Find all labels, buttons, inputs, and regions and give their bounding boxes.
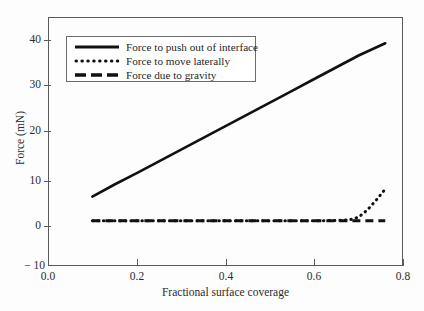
y-tick-label-40: 40 (7, 34, 41, 46)
y-tick-label-30-wrap: 30 (0, 79, 41, 91)
legend-label-force-gravity: Force due to gravity (126, 69, 216, 81)
series-force-lateral (92, 189, 385, 221)
y-axis-title: Force (mN) (14, 98, 26, 178)
x-axis-title: Fractional surface coverage (48, 286, 403, 298)
y-tick-label-40-wrap: 40 (0, 34, 41, 46)
x-tick-label-0.0: 0.0 (28, 270, 68, 282)
legend-entry-force-gravity: Force due to gravity (67, 68, 255, 81)
x-tick-label-0.2: 0.2 (117, 270, 157, 282)
legend-label-force-push-out: Force to push out of interface (126, 41, 258, 53)
y-tick-label-0-wrap: 0 (0, 220, 41, 232)
legend-entry-force-lateral: Force to move laterally (67, 54, 255, 67)
x-tick-label-0.6: 0.6 (294, 270, 334, 282)
x-tick-label-0.4: 0.4 (206, 270, 246, 282)
y-tick-label-0: 0 (7, 220, 41, 232)
x-tick-label-0.8: 0.8 (383, 270, 423, 282)
figure-chart: 40 30 20 10 0 − 10 0.0 0.2 0.4 0.6 0.8 F… (0, 0, 424, 311)
legend-swatch-dotted-line (74, 55, 120, 67)
legend-label-force-lateral: Force to move laterally (126, 55, 230, 67)
legend: Force to push out of interface Force to … (66, 36, 256, 82)
legend-entry-force-push-out: Force to push out of interface (67, 40, 255, 53)
legend-swatch-dashed-line (74, 69, 120, 81)
legend-swatch-solid-line (74, 41, 120, 53)
y-tick-label-30: 30 (7, 79, 41, 91)
x-tick-mark-0.8 (403, 259, 404, 266)
